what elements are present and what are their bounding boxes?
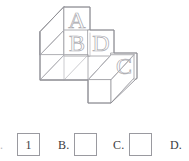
isometric-block-figure: A B D C bbox=[0, 0, 189, 120]
choice-d-label: D. bbox=[170, 139, 182, 151]
choice-c-label: C. bbox=[113, 139, 124, 151]
face-letter-B: B bbox=[69, 30, 85, 56]
choice-b-label: B. bbox=[58, 139, 69, 151]
choice-a-box[interactable]: 1 bbox=[17, 133, 40, 156]
choice-c[interactable]: C. bbox=[113, 128, 152, 161]
choice-a-box-value: 1 bbox=[26, 139, 32, 151]
choice-d[interactable]: D. bbox=[170, 128, 182, 161]
choice-a-label: . bbox=[0, 139, 3, 151]
choice-a[interactable]: 1 bbox=[12, 128, 40, 161]
figure-area: A B D C bbox=[0, 0, 189, 120]
face-letter-D: D bbox=[92, 30, 109, 56]
choice-a-label-clipped: . bbox=[0, 128, 3, 161]
choice-b-box[interactable] bbox=[74, 133, 97, 156]
answer-choices-row: . 1 B. C. D. bbox=[0, 128, 189, 161]
right-wing-front-face bbox=[88, 80, 111, 103]
choice-b[interactable]: B. bbox=[58, 128, 97, 161]
choice-c-box[interactable] bbox=[129, 133, 152, 156]
upper-left-edge-strip bbox=[40, 7, 64, 55]
face-letter-C: C bbox=[116, 53, 132, 79]
question-figure-page: A B D C . 1 B. C. bbox=[0, 0, 189, 161]
